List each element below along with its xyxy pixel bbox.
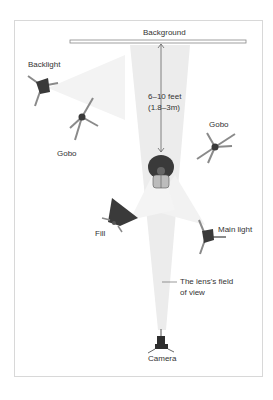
main-light-label: Main light [218, 225, 252, 235]
camera-label: Camera [148, 354, 176, 364]
fov-label-line2: of view [180, 288, 205, 298]
fill-label: Fill [95, 229, 105, 239]
gobo-right-label: Gobo [209, 120, 229, 130]
gobo-icon-right [197, 133, 235, 163]
background-bar-icon [70, 40, 246, 43]
backlight-label: Backlight [28, 60, 60, 70]
backlight-icon [28, 76, 58, 106]
camera-icon [148, 329, 174, 353]
fill-softbox-icon [102, 198, 138, 232]
distance-label-line2: (1.8–3m) [148, 103, 180, 113]
distance-label-line1: 6–10 feet [148, 92, 181, 102]
gobo-left-label: Gobo [57, 149, 77, 159]
background-label: Background [143, 28, 186, 38]
fov-label-line1: The lens's field [180, 277, 233, 287]
